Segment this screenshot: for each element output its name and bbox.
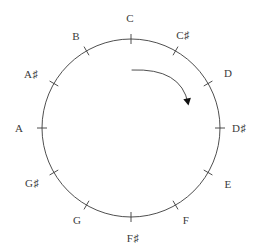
tick-mark-G (84, 201, 89, 210)
note-letter: G (25, 177, 33, 189)
note-letter: C (176, 29, 184, 41)
tick-mark-A-sharp (50, 81, 59, 86)
note-label-G-sharp: G♯ (25, 178, 39, 189)
note-letter: G (73, 214, 81, 226)
note-label-F-sharp: F♯ (127, 233, 139, 244)
tick-mark-B (84, 47, 89, 56)
note-label-G: G (73, 215, 81, 226)
tick-mark-G-sharp (50, 170, 59, 175)
sharp-icon: ♯ (133, 232, 139, 244)
note-label-C-sharp: C♯ (176, 30, 190, 41)
note-letter: A (24, 68, 32, 80)
note-label-C: C (126, 13, 134, 24)
sharp-icon: ♯ (32, 68, 38, 80)
note-label-D: D (224, 68, 232, 79)
chromatic-circle-figure: CC♯DD♯EFF♯GG♯AA♯B (0, 0, 265, 251)
note-letter: F (183, 214, 189, 226)
circle-outline-group (42, 39, 220, 217)
tick-mark-E (204, 170, 213, 175)
note-label-E: E (225, 179, 232, 190)
clockwise-direction-arrow (132, 70, 191, 106)
note-label-F: F (183, 215, 189, 226)
note-label-D-sharp: D♯ (232, 123, 246, 134)
note-letter: C (126, 12, 134, 24)
note-label-A: A (15, 123, 23, 134)
note-letter: D (232, 122, 240, 134)
pitch-circle-outline (42, 39, 220, 217)
sharp-icon: ♯ (184, 29, 190, 41)
note-letter: A (15, 122, 23, 134)
note-letter: B (72, 30, 80, 42)
note-label-B: B (72, 31, 80, 42)
tick-mark-F (173, 201, 178, 210)
arrow-head-icon (183, 98, 191, 106)
sharp-icon: ♯ (33, 177, 39, 189)
chromatic-circle-svg (0, 0, 265, 251)
tick-mark-C-sharp (173, 47, 178, 56)
tick-marks-group (37, 34, 225, 222)
sharp-icon: ♯ (240, 122, 246, 134)
note-letter: E (225, 178, 232, 190)
arrow-curve-path (132, 70, 188, 103)
note-letter: D (224, 67, 232, 79)
note-label-A-sharp: A♯ (24, 69, 38, 80)
tick-mark-D (204, 81, 213, 86)
